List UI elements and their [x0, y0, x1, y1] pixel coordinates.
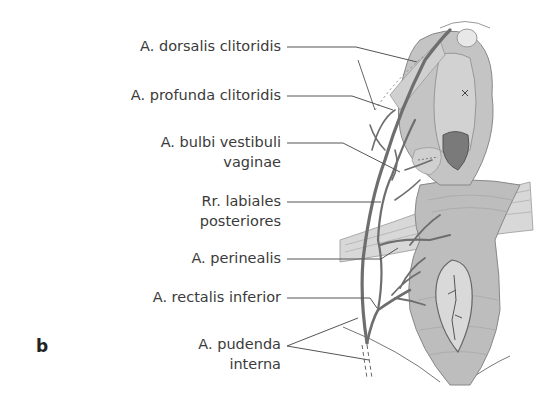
panel-letter: b — [36, 336, 48, 356]
label-a-pudenda-interna: A. pudenda interna — [198, 336, 281, 373]
label-a-dorsalis-clitoridis: A. dorsalis clitoridis — [140, 38, 281, 55]
label-rr-labiales-posteriores: Rr. labiales posteriores — [200, 193, 281, 230]
label-a-bulbi-vestibuli-vaginae: A. bulbi vestibuli vaginae — [161, 134, 281, 171]
label-a-perinealis: A. perinealis — [191, 250, 281, 267]
label-a-rectalis-inferior: A. rectalis inferior — [153, 289, 281, 306]
label-a-profunda-clitoridis: A. profunda clitoridis — [131, 87, 281, 104]
